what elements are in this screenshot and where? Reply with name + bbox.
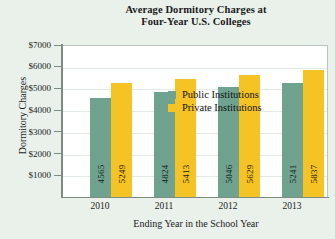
bar-private-2013: 5837 (303, 70, 324, 197)
chart-title-line-1: Average Dormitory Charges at (125, 4, 266, 15)
y-tick-mark-3000 (54, 131, 61, 132)
legend-label-private: Private Institutions (182, 102, 262, 113)
y-tick-mark-6000 (54, 66, 61, 67)
y-tick-label-3000: $3000 (5, 128, 51, 137)
bar-value-public-2012: 5046 (224, 165, 234, 184)
legend-item-public: Public Institutions (168, 88, 262, 101)
y-tick-label-4000: $4000 (5, 106, 51, 115)
chart-title-line-2: Four-Year U.S. Colleges (62, 16, 330, 28)
plot-area: 4565 5249 4824 5413 5046 5629 5241 5837 (62, 45, 328, 197)
x-tick-label-2010: 2010 (70, 201, 130, 211)
x-tick-label-2012: 2012 (198, 201, 258, 211)
x-tick-label-2011: 2011 (134, 201, 194, 211)
bar-value-public-2011: 4824 (160, 165, 170, 184)
y-tick-label-6000: $6000 (5, 62, 51, 71)
legend-item-private: Private Institutions (168, 101, 262, 114)
bar-private-2010: 5249 (111, 83, 132, 197)
bar-value-public-2013: 5241 (288, 165, 298, 184)
y-tick-mark-2000 (54, 153, 61, 154)
y-tick-mark-4000 (54, 110, 61, 111)
y-tick-label-1000: $1000 (5, 171, 51, 180)
y-tick-label-7000: $7000 (5, 41, 51, 50)
bar-value-private-2013: 5837 (309, 165, 319, 184)
y-tick-mark-5000 (54, 88, 61, 89)
x-axis-title: Ending Year in the School Year (62, 218, 330, 229)
bar-value-private-2012: 5629 (245, 165, 255, 184)
legend-swatch-private-icon (168, 104, 176, 112)
bar-value-public-2010: 4565 (96, 165, 106, 184)
bar-value-private-2010: 5249 (117, 165, 127, 184)
bar-public-2013: 5241 (282, 83, 303, 197)
y-axis-title: Dormitory Charges (17, 51, 28, 181)
chart-title: Average Dormitory Charges at Four-Year U… (62, 4, 330, 28)
bar-chart-figure: Average Dormitory Charges at Four-Year U… (0, 0, 335, 239)
y-axis-line (61, 44, 63, 198)
x-axis-line (61, 197, 329, 199)
bar-value-private-2011: 5413 (181, 165, 191, 184)
y-tick-mark-1000 (54, 175, 61, 176)
x-tick-label-2013: 2013 (262, 201, 322, 211)
chart-legend: Public Institutions Private Institutions (168, 88, 262, 114)
bar-public-2010: 4565 (90, 98, 111, 197)
gridline-6000 (62, 68, 327, 69)
y-tick-label-5000: $5000 (5, 84, 51, 93)
y-tick-label-2000: $2000 (5, 150, 51, 159)
legend-swatch-public-icon (168, 91, 176, 99)
y-tick-mark-7000 (54, 45, 61, 46)
legend-label-public: Public Institutions (182, 89, 259, 100)
